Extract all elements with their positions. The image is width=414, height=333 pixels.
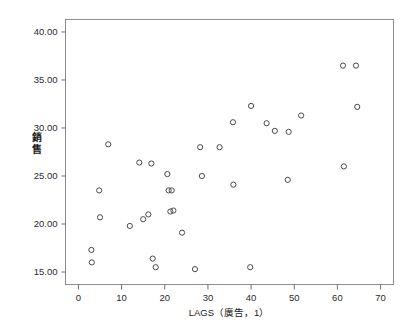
x-tick-label: 10 — [116, 292, 127, 303]
y-tick-label: 15.00 — [34, 266, 58, 277]
y-axis-title-char: 售 — [32, 143, 42, 155]
y-tick-label: 25.00 — [34, 170, 58, 181]
y-tick-label: 20.00 — [34, 218, 58, 229]
chart-canvas: 15.0020.0025.0030.0035.0040.00 010203040… — [0, 0, 414, 333]
x-axis-title: LAGS（廣告，1） — [189, 307, 270, 318]
y-axis-title-char: 銷 — [32, 131, 42, 143]
y-tick-label: 40.00 — [34, 26, 58, 37]
x-tick-label: 20 — [159, 292, 170, 303]
x-tick-label: 60 — [332, 292, 343, 303]
y-tick-label: 35.00 — [34, 74, 58, 85]
x-tick-label: 30 — [203, 292, 214, 303]
x-tick-label: 70 — [375, 292, 386, 303]
plot-frame — [66, 20, 394, 285]
scatter-plot-chart: 15.0020.0025.0030.0035.0040.00 010203040… — [0, 0, 414, 333]
x-tick-label: 40 — [246, 292, 257, 303]
x-tick-label: 0 — [76, 292, 81, 303]
x-tick-label: 50 — [289, 292, 300, 303]
